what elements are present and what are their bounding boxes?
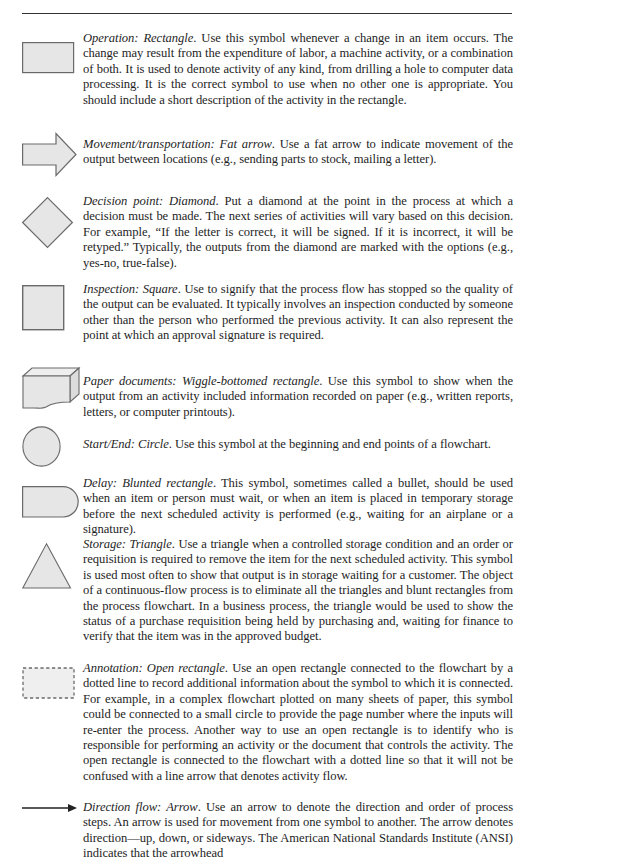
open-rectangle-icon — [22, 667, 76, 699]
entry-term: Start/End: Circle — [83, 437, 169, 451]
header-rule — [22, 13, 512, 14]
entry-text: Annotation: Open rectangle. Use an open … — [83, 661, 513, 784]
square-icon — [22, 285, 66, 332]
fat-arrow-icon — [22, 133, 78, 177]
entry-term: Inspection: Square — [83, 282, 178, 296]
entry-text: Delay: Blunted rectangle. This symbol, s… — [83, 476, 513, 538]
entry-body: . Use a triangle when a controlled stora… — [83, 537, 513, 643]
entry-text: Inspection: Square. Use to signify that … — [83, 282, 513, 344]
rectangle-icon — [22, 42, 76, 74]
delay-icon — [22, 486, 80, 518]
entry-text: Storage: Triangle. Use a triangle when a… — [83, 537, 513, 645]
document-icon — [22, 367, 80, 409]
entry-term: Decision point: Diamond — [83, 194, 216, 208]
entry-term: Storage: Triangle — [83, 537, 172, 551]
entry-term: Operation: Rectangle — [83, 31, 193, 45]
entry-text: Decision point: Diamond. Put a diamond a… — [83, 194, 513, 271]
entry-term: Movement/transportation: Fat arrow — [83, 137, 272, 151]
entry-term: Annotation: Open rectangle — [83, 661, 225, 675]
entry-text: Direction flow: Arrow. Use an arrow to d… — [83, 800, 513, 861]
triangle-icon — [22, 543, 72, 589]
entry-body: . Use this symbol at the beginning and e… — [169, 437, 491, 451]
entry-term: Direction flow: Arrow — [83, 800, 198, 814]
entry-text: Paper documents: Wiggle-bottomed rectang… — [83, 374, 513, 420]
entry-text: Start/End: Circle. Use this symbol at th… — [83, 437, 513, 452]
entry-term: Paper documents: Wiggle-bottomed rectang… — [83, 374, 319, 388]
entry-body: . Use an open rectangle connected to the… — [83, 661, 513, 783]
line-arrow-icon — [22, 803, 78, 813]
diamond-icon — [22, 197, 74, 249]
entry-text: Movement/transportation: Fat arrow. Use … — [83, 137, 513, 168]
entry-text: Operation: Rectangle. Use this symbol wh… — [83, 31, 513, 108]
entry-term: Delay: Blunted rectangle — [83, 476, 213, 490]
circle-icon — [22, 426, 62, 468]
